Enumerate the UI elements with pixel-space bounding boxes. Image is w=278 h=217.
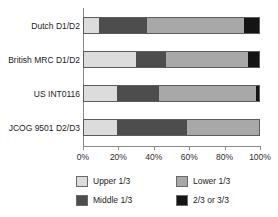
bar-row [83, 119, 260, 136]
legend-item: Upper 1/3 [76, 174, 130, 188]
bar-row [83, 17, 260, 34]
chart-legend: Upper 1/3Lower 1/3Middle 1/32/3 or 3/3 [76, 174, 266, 214]
bar-row [83, 51, 260, 68]
x-axis-tick [260, 146, 261, 150]
legend-swatch-icon [176, 176, 188, 187]
legend-label: Upper 1/3 [93, 176, 130, 186]
x-axis-line [83, 146, 261, 147]
legend-item: Lower 1/3 [176, 174, 230, 188]
legend-item: Middle 1/3 [76, 193, 132, 207]
legend-swatch-icon [76, 195, 88, 206]
bar-segment [99, 17, 147, 34]
legend-label: Lower 1/3 [193, 176, 230, 186]
x-axis-tick-label: 60% [172, 152, 206, 162]
bar-segment [136, 51, 166, 68]
bar-row [83, 85, 260, 102]
category-label: British MRC D1/D2 [0, 55, 80, 65]
category-label: US INT0116 [0, 89, 80, 99]
bar-segment [83, 17, 99, 34]
category-label: JCOG 9501 D2/D3 [0, 123, 80, 133]
bar-segment [83, 85, 117, 102]
bar-segment [159, 85, 256, 102]
x-axis-tick [225, 146, 226, 150]
bar-segment [83, 119, 117, 136]
x-axis-tick [154, 146, 155, 150]
bar-segment [244, 17, 260, 34]
category-labels: Dutch D1/D2British MRC D1/D2US INT0116JC… [0, 0, 80, 146]
legend-swatch-icon [76, 176, 88, 187]
legend-swatch-icon [176, 195, 188, 206]
legend-item: 2/3 or 3/3 [176, 193, 229, 207]
x-axis-tick-label: 100% [243, 152, 277, 162]
bar-segment [248, 51, 260, 68]
x-axis-tick-label: 0% [66, 152, 100, 162]
plot-area [83, 8, 260, 146]
bar-segment [117, 85, 159, 102]
stacked-bar-chart: Dutch D1/D2British MRC D1/D2US INT0116JC… [0, 0, 278, 217]
legend-label: Middle 1/3 [93, 195, 132, 205]
bar-segment [256, 85, 260, 102]
x-axis-tick [83, 146, 84, 150]
category-label: Dutch D1/D2 [0, 21, 80, 31]
bar-segment [83, 51, 136, 68]
x-axis-tick-label: 20% [101, 152, 135, 162]
x-axis-tick [189, 146, 190, 150]
x-axis-tick [118, 146, 119, 150]
bar-segment [166, 51, 247, 68]
x-axis-tick-label: 40% [137, 152, 171, 162]
bar-segment [187, 119, 260, 136]
bar-segment [147, 17, 244, 34]
bar-segment [117, 119, 188, 136]
legend-label: 2/3 or 3/3 [193, 195, 229, 205]
x-axis-tick-label: 80% [208, 152, 242, 162]
